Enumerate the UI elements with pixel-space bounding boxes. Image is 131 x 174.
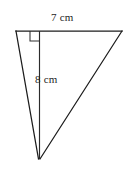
geometry-figure-canvas: 7 cm 8 cm	[0, 0, 131, 174]
height-length-label: 8 cm	[35, 74, 58, 85]
base-length-label: 7 cm	[51, 12, 74, 23]
triangle-right-edge	[40, 31, 122, 159]
right-angle-icon	[30, 31, 40, 41]
triangle-left-edge	[16, 31, 39, 159]
triangle-diagram-svg	[0, 0, 131, 174]
